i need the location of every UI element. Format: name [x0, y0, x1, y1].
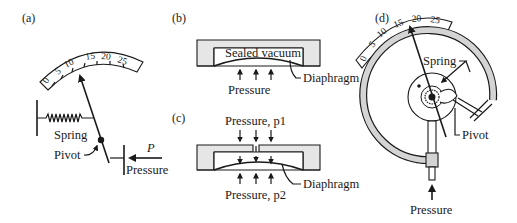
scale-tick-15: 15: [85, 50, 96, 62]
linkage-arm: [453, 98, 492, 121]
diaphragm-label-b: Diaphragm: [303, 71, 360, 85]
pivot-leader: [84, 146, 97, 155]
pivot-dot: [98, 137, 104, 143]
force-label: P: [146, 141, 155, 155]
inlet-pipe: [429, 167, 435, 180]
panel-d: (d) 0 5 10 15 20 25 Pressure: [356, 11, 493, 217]
socket: [426, 153, 438, 167]
pressure-p2-label: Pressure, p2: [225, 188, 286, 202]
d-scale-tick-20: 20: [411, 13, 422, 24]
spring-label-d: Spring: [423, 54, 457, 68]
scale-tick-20: 20: [101, 51, 112, 62]
pressure-label-b: Pressure: [228, 83, 271, 97]
spring-label: Spring: [54, 128, 88, 142]
pressure-gauge-diagram: (a) 0 5 10 15 20 25: [0, 0, 517, 223]
panel-d-label: (d): [375, 11, 389, 25]
panel-c-label: (c): [172, 111, 185, 125]
pivot-label: Pivot: [54, 148, 81, 162]
panel-a: (a) 0 5 10 15 20 25: [22, 11, 169, 177]
panel-c: (c) Pressure, p1 Pressure, p2 Diaphragm: [172, 111, 360, 202]
panel-b-label: (b): [172, 11, 186, 25]
panel-a-scale: 0 5 10 15 20 25: [40, 50, 143, 90]
diaphragm-label-c: Diaphragm: [303, 177, 360, 191]
spring-icon: [37, 114, 94, 122]
pivot-label-d: Pivot: [462, 128, 489, 142]
sealed-vacuum-label: Sealed vacuum: [225, 46, 301, 60]
panel-b: (b) Sealed vacuum Pressure Diaphragm: [172, 11, 360, 97]
panel-a-label: (a): [22, 11, 35, 25]
d-scale-tick-25: 25: [430, 14, 441, 26]
pressure-label-a: Pressure: [126, 163, 169, 177]
pressure-label-d: Pressure: [410, 203, 453, 217]
pivot-leader-d: [455, 108, 460, 135]
pressure-p1-label: Pressure, p1: [225, 114, 286, 128]
